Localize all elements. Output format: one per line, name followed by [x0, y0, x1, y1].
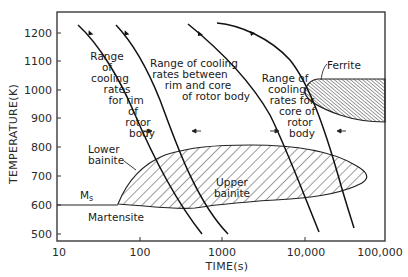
chart: 1200 1100 1000 900 800 700 600 500 10 10… [0, 0, 408, 277]
svg-text:body: body [289, 127, 315, 139]
x-tick-100: 100 [130, 246, 151, 259]
arrow-icon [124, 30, 130, 36]
y-tick-600: 600 [31, 199, 52, 212]
svg-text:bainite: bainite [88, 154, 124, 166]
arrow-icon [88, 30, 94, 36]
lower-bainite-leader [124, 161, 136, 170]
annotation-between: Range of cooling rates between rim and c… [150, 57, 250, 102]
y-axis-title: TEMPERATURE(K) [7, 84, 20, 185]
x-tick-10000: 10,000 [287, 246, 326, 259]
x-tick-100000: 100,000 [357, 246, 403, 259]
curve-direction-arrows [88, 30, 255, 36]
y-tick-700: 700 [31, 170, 52, 183]
x-tick-10: 10 [52, 246, 66, 259]
y-tick-1100: 1100 [24, 55, 52, 68]
x-axis-title: TIME(s) [205, 260, 249, 273]
ferrite-label: Ferrite [327, 59, 361, 71]
annotation-upper-bainite: Upper bainite [214, 176, 250, 199]
svg-text:bainite: bainite [214, 187, 250, 199]
arrow-icon [250, 31, 255, 36]
y-tick-1000: 1000 [24, 84, 52, 97]
plot-frame [57, 12, 385, 241]
svg-text:for rim: for rim [108, 94, 143, 106]
ms-label: Ms [80, 189, 93, 203]
ferrite-region [305, 79, 385, 122]
x-tick-1000: 1000 [208, 246, 236, 259]
annotation-rim: Range of cooling rates for rim of rotor … [90, 50, 155, 139]
svg-text:body: body [129, 127, 155, 139]
y-tick-labels: 1200 1100 1000 900 800 700 600 500 [24, 27, 52, 241]
y-tick-800: 800 [31, 141, 52, 154]
martensite-label: Martensite [88, 211, 144, 223]
y-tick-1200: 1200 [24, 27, 52, 40]
annotation-core: Range of cooling rates for core of rotor… [262, 72, 316, 139]
y-tick-900: 900 [31, 112, 52, 125]
svg-text:of rotor body: of rotor body [182, 90, 250, 102]
y-tick-500: 500 [31, 228, 52, 241]
annotation-lower-bainite: Lower bainite [88, 143, 124, 166]
x-tick-labels: 10 100 1000 10,000 100,000 [52, 246, 403, 259]
